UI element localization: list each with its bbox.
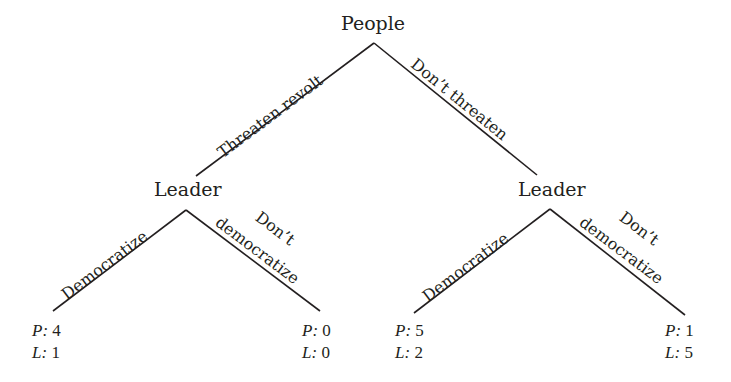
payoff-player-p: P: bbox=[32, 321, 48, 340]
payoff-player-p: P: bbox=[665, 321, 681, 340]
payoff-player-l: L: bbox=[665, 343, 680, 362]
payoff-value-p: 0 bbox=[322, 321, 331, 340]
payoff-player-l: L: bbox=[302, 343, 317, 362]
payoff-player-p: P: bbox=[302, 321, 318, 340]
payoff-value-l: 0 bbox=[321, 343, 330, 362]
payoff-player-l: L: bbox=[32, 343, 47, 362]
left-leader-node-label: Leader bbox=[154, 180, 222, 199]
payoff-leaf-2: P: 0 L: 0 bbox=[302, 320, 331, 364]
payoff-value-l: 2 bbox=[414, 343, 423, 362]
root-node-label: People bbox=[341, 14, 405, 33]
payoff-value-l: 1 bbox=[51, 343, 60, 362]
payoff-value-p: 4 bbox=[52, 321, 61, 340]
game-tree-diagram: People Leader Leader Threaten revolt Don… bbox=[0, 0, 731, 382]
payoff-value-p: 5 bbox=[415, 321, 424, 340]
payoff-leaf-1: P: 4 L: 1 bbox=[32, 320, 61, 364]
edge-left-dont-democratize bbox=[186, 210, 320, 311]
payoff-value-p: 1 bbox=[685, 321, 694, 340]
payoff-leaf-3: P: 5 L: 2 bbox=[395, 320, 424, 364]
payoff-player-l: L: bbox=[395, 343, 410, 362]
payoff-value-l: 5 bbox=[684, 343, 693, 362]
payoff-player-p: P: bbox=[395, 321, 411, 340]
edge-right-dont-democratize bbox=[550, 209, 685, 315]
right-leader-node-label: Leader bbox=[518, 180, 586, 199]
tree-edges bbox=[0, 0, 731, 382]
payoff-leaf-4: P: 1 L: 5 bbox=[665, 320, 694, 364]
